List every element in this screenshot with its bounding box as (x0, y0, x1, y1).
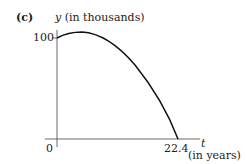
panel-label: (c) (16, 12, 33, 24)
y-tick-label-100: 100 (33, 32, 54, 44)
y-axis-var: y (55, 11, 61, 24)
x-end-label: 22.4 (164, 143, 189, 155)
y-axis-unit: (in thousands) (65, 11, 145, 24)
x-axis-unit: (in years) (188, 150, 241, 162)
origin-label: 0 (46, 143, 53, 155)
y-axis-label: y (in thousands) (55, 12, 145, 24)
chart-canvas (0, 0, 247, 164)
curve-y-of-t (57, 32, 178, 139)
